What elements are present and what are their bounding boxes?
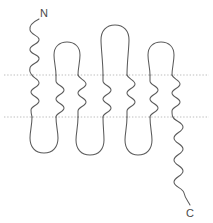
intracellular-loop-1 — [30, 117, 58, 153]
topology-figure: N C — [0, 0, 213, 223]
membrane-topology-diagram: N C — [0, 0, 213, 223]
tm-helix-4 — [103, 75, 111, 117]
extracellular-loop-3 — [148, 42, 174, 75]
extracellular-loop-1 — [54, 42, 80, 75]
tm-helix-5 — [127, 75, 135, 117]
c-terminal-tail — [173, 117, 190, 205]
intracellular-loop-2 — [76, 117, 104, 155]
n-terminal-tail — [30, 19, 39, 75]
intracellular-loop-3 — [125, 117, 152, 155]
tm-helix-1 — [31, 75, 39, 117]
n-terminus-label: N — [40, 7, 48, 19]
tm-helix-3 — [78, 75, 86, 117]
tm-helix-7 — [172, 75, 180, 117]
tm-helix-6 — [150, 75, 158, 117]
extracellular-loop-2 — [101, 25, 129, 75]
tm-helix-2 — [56, 75, 64, 117]
c-terminus-label: C — [186, 207, 194, 219]
